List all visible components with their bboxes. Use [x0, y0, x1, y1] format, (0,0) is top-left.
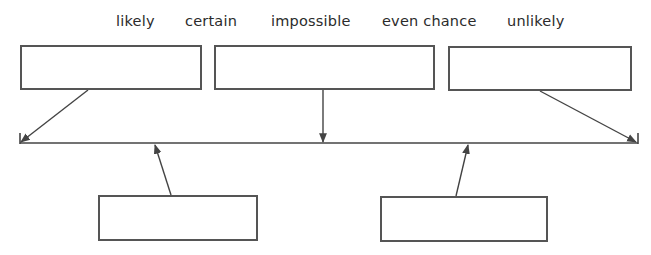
number-line [20, 133, 638, 144]
answer-box-top-middle[interactable] [214, 45, 435, 90]
answer-box-bottom-right[interactable] [380, 196, 548, 242]
arrow-top-right [540, 91, 636, 142]
arrow-top-left [21, 90, 88, 142]
answer-box-top-right[interactable] [448, 46, 632, 91]
answer-box-top-left[interactable] [20, 45, 202, 90]
arrow-bottom-left [155, 145, 171, 195]
arrow-bottom-right [456, 145, 468, 196]
answer-box-bottom-left[interactable] [98, 195, 258, 241]
